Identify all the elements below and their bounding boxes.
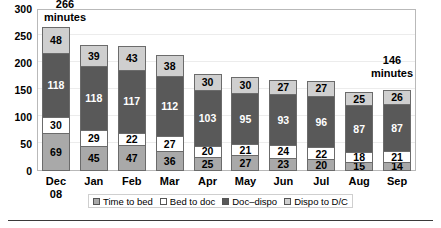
bar-segment[interactable]: 27 [156, 136, 184, 152]
bar-segment[interactable]: 24 [269, 145, 297, 159]
bar-segment[interactable]: 20 [307, 159, 335, 171]
bar-group[interactable]: 15188725 [345, 93, 373, 171]
y-tick-label: 0 [26, 166, 32, 176]
bar-segment[interactable]: 14 [383, 162, 411, 171]
bar-segment[interactable]: 112 [156, 76, 184, 137]
bar-segment[interactable]: 30 [231, 77, 259, 94]
bar-segment[interactable]: 29 [80, 130, 108, 147]
legend-item[interactable]: Doc–dispo [222, 197, 277, 206]
x-tick-label: Jul [301, 175, 341, 188]
legend-swatch-icon [284, 198, 291, 205]
y-tick-label: 250 [14, 31, 32, 41]
bar-segment[interactable]: 15 [345, 162, 373, 171]
bar-segment[interactable]: 38 [156, 55, 184, 77]
x-tick-label: Feb [112, 175, 152, 188]
bar-group[interactable]: 362711238 [156, 56, 184, 171]
bar-segment[interactable]: 118 [80, 66, 108, 131]
y-tick-label: 300 [14, 4, 32, 14]
bar-group[interactable]: 14218726 [383, 91, 411, 171]
y-tick-label: 150 [14, 85, 32, 95]
bar-segment[interactable]: 36 [156, 151, 184, 171]
x-tick-label: Sep [377, 175, 417, 188]
bar-segment[interactable]: 95 [231, 93, 259, 145]
bar-segment[interactable]: 118 [42, 53, 70, 118]
footer-divider [8, 220, 433, 221]
legend-swatch-icon [222, 198, 229, 205]
y-axis: 050100150200250300 [0, 0, 37, 180]
annotation-total-last: 146 minutes [361, 54, 423, 80]
y-tick-label: 100 [14, 112, 32, 122]
bar-segment[interactable]: 27 [231, 155, 259, 171]
bar-group[interactable]: 20229627 [307, 82, 335, 171]
x-tick-label: Jan [74, 175, 114, 188]
bar-group[interactable]: 452911839 [80, 46, 108, 171]
stacked-bar-chart-figure: 050100150200250300 693011848452911839472… [0, 0, 441, 228]
bar-segment[interactable]: 30 [194, 74, 222, 91]
bar-segment[interactable]: 30 [42, 117, 70, 134]
bar-segment[interactable]: 117 [118, 70, 146, 134]
bar-group[interactable]: 693011848 [42, 28, 70, 171]
bar-segment[interactable]: 39 [80, 45, 108, 67]
chart-legend: Time to bedBed to docDoc–dispoDispo to D… [88, 194, 353, 208]
x-tick-label: Jun [263, 175, 303, 188]
legend-item[interactable]: Bed to doc [160, 197, 215, 206]
bar-segment[interactable]: 103 [194, 90, 222, 147]
x-tick-label: Mar [150, 175, 190, 188]
bar-group[interactable]: 252010330 [194, 75, 222, 171]
bar-segment[interactable]: 48 [42, 27, 70, 54]
x-tick-label: Aug [339, 175, 379, 188]
bar-segment[interactable]: 27 [269, 80, 297, 96]
x-tick-label: Apr [188, 175, 228, 188]
legend-label: Bed to doc [170, 197, 215, 206]
legend-label: Time to bed [103, 197, 153, 206]
legend-swatch-icon [160, 198, 167, 205]
bar-segment[interactable]: 45 [80, 146, 108, 171]
bar-segment[interactable]: 25 [194, 157, 222, 172]
bar-segment[interactable]: 69 [42, 133, 70, 171]
bar-segment[interactable]: 96 [307, 96, 335, 149]
bar-segment[interactable]: 23 [269, 158, 297, 171]
annotation-total-first: 266 minutes [34, 0, 96, 24]
bar-segment[interactable]: 87 [345, 105, 373, 153]
bar-segment[interactable]: 87 [383, 104, 411, 152]
bar-group[interactable]: 27219530 [231, 78, 259, 171]
bar-group[interactable]: 23249327 [269, 81, 297, 171]
y-tick-label: 50 [20, 139, 32, 149]
legend-item[interactable]: Dispo to D/C [284, 197, 348, 206]
bar-segment[interactable]: 43 [118, 46, 146, 70]
legend-item[interactable]: Time to bed [93, 197, 153, 206]
bar-segment[interactable]: 47 [118, 145, 146, 171]
legend-label: Dispo to D/C [294, 197, 348, 206]
legend-label: Doc–dispo [232, 197, 277, 206]
bar-series-container: 6930118484529118394722117433627112382520… [37, 9, 416, 171]
bar-segment[interactable]: 93 [269, 94, 297, 145]
bar-group[interactable]: 472211743 [118, 47, 146, 171]
bar-segment[interactable]: 25 [345, 92, 373, 107]
bar-segment[interactable]: 27 [307, 81, 335, 97]
y-tick-label: 200 [14, 58, 32, 68]
bar-segment[interactable]: 26 [383, 90, 411, 105]
legend-swatch-icon [93, 198, 100, 205]
x-tick-label: May [225, 175, 265, 188]
x-tick-label: Dec 08 [36, 175, 76, 201]
